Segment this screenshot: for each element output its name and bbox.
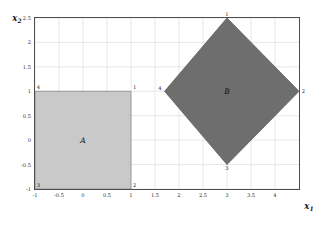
x-tick-label: -0.5 xyxy=(54,192,64,198)
y-tick-label: 2.5 xyxy=(23,15,31,21)
vertex-label-b-3: 3 xyxy=(225,165,228,171)
x-tick-label: 3 xyxy=(225,192,228,198)
x-tick-label: -1 xyxy=(32,192,37,198)
x-tick-label: 0 xyxy=(81,192,84,198)
y-tick-label: 1.5 xyxy=(23,64,31,70)
vertex-label-b-1: 1 xyxy=(225,11,228,17)
y-tick-label: 2 xyxy=(28,39,31,45)
y-tick-label: 0 xyxy=(28,137,31,143)
x-tick-label: 3.5 xyxy=(247,192,255,198)
figure-container: -1-0.500.511.522.533.54 -1-0.500.511.522… xyxy=(0,0,331,229)
vertex-label-a-2: 2 xyxy=(133,182,136,188)
region-letter-b: B xyxy=(223,87,230,96)
x-tick-label: 0.5 xyxy=(103,192,111,198)
y-tick-label: 1 xyxy=(28,88,31,94)
vertex-label-a-3: 3 xyxy=(37,182,40,188)
y-tick-label: -1 xyxy=(26,186,31,192)
x-tick-label: 2 xyxy=(177,192,180,198)
x-tick-label: 1.5 xyxy=(151,192,159,198)
y-tick-label: 0.5 xyxy=(23,113,31,119)
x-tick-label: 2.5 xyxy=(199,192,207,198)
x-tick-label: 1 xyxy=(129,192,132,198)
vertex-label-b-2: 2 xyxy=(302,88,305,94)
plot-canvas: -1-0.500.511.522.533.54 -1-0.500.511.522… xyxy=(0,0,331,229)
y-tick-label: -0.5 xyxy=(21,162,31,168)
vertex-label-a-1: 1 xyxy=(133,84,136,90)
region-letter-a: A xyxy=(79,136,86,145)
